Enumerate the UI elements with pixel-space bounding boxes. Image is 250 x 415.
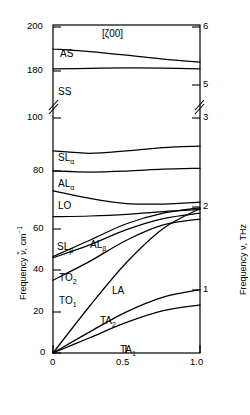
- y-axis-right-label: Frequency ν, THz: [238, 224, 248, 295]
- branch-label-text: TO: [59, 272, 73, 283]
- branch-label-text: TA: [100, 315, 112, 326]
- branch-label-text: TA: [120, 344, 132, 355]
- branch-label-subscript: 2: [73, 278, 77, 285]
- nu-tilde-symbol: ν̃: [18, 250, 28, 255]
- phonon-dispersion-figure: 200 180 100 80 60 40 20 0 6 5 3 2 1 0 0.…: [0, 0, 250, 415]
- branch-curve-ALa: [53, 168, 200, 172]
- branch-label-TA1: TA1: [120, 344, 136, 357]
- y-left-tick-60: 60: [33, 222, 44, 233]
- y-right-tick-2: 2: [203, 200, 208, 211]
- y-right-tick-1: 1: [203, 283, 208, 294]
- branch-label-AS: AS: [60, 48, 73, 59]
- branch-label-subscript: β: [102, 245, 106, 252]
- branch-label-LA: LA: [112, 285, 124, 296]
- y-right-tick-6: 6: [203, 20, 208, 31]
- y-left-tick-200: 200: [27, 20, 43, 31]
- branch-label-text: SL: [57, 241, 69, 252]
- y-left-label-text: Frequency: [18, 255, 28, 300]
- branch-label-text: AS: [60, 48, 73, 59]
- y-left-tick-40: 40: [33, 263, 44, 274]
- branch-label-ALb: ALβ: [90, 239, 106, 252]
- y-axis-left-label: Frequency ν̃, cm−1: [16, 226, 28, 300]
- y-right-tick-5: 5: [203, 78, 208, 89]
- branch-label-text: AL: [90, 239, 102, 250]
- branch-label-text: TO: [59, 295, 73, 306]
- branch-label-TO2: TO2: [59, 272, 77, 285]
- branch-label-LO: LO: [58, 200, 71, 211]
- y-left-tick-100: 100: [27, 111, 43, 122]
- branch-label-SS: SS: [58, 86, 71, 97]
- axis-break-marks: [49, 100, 204, 114]
- branch-label-SLa: SLα: [58, 152, 74, 165]
- branch-label-text: AL: [58, 178, 70, 189]
- x-tick-0: 0: [50, 356, 55, 367]
- y-left-tick-80: 80: [33, 164, 44, 175]
- branch-curve-AS: [53, 49, 200, 62]
- branch-label-subscript: 1: [73, 301, 77, 308]
- branch-curve-LO: [53, 191, 200, 204]
- branch-curve-SLa: [53, 146, 200, 153]
- direction-annotation: [ζ00]: [102, 28, 123, 39]
- branch-label-text: SS: [58, 86, 71, 97]
- y-left-label-exponent: −1: [16, 226, 23, 233]
- branch-label-subscript: 1: [132, 350, 136, 357]
- branch-label-subscript: β: [69, 247, 73, 254]
- branch-curve-SS: [53, 68, 200, 69]
- branch-label-text: LO: [58, 200, 71, 211]
- x-axis-caption: (Γ) (Y) ζ = k (2π/a₀) = a₀ λ: [0, 372, 250, 404]
- branch-label-TA2: TA2: [100, 315, 116, 328]
- branch-label-subscript: 2: [112, 321, 116, 328]
- branch-label-text: SL: [58, 152, 70, 163]
- y-left-tick-20: 20: [33, 305, 44, 316]
- y-left-tick-180: 180: [27, 64, 43, 75]
- branch-label-subscript: α: [70, 158, 74, 165]
- branch-label-ALa: ALα: [58, 178, 74, 191]
- x-tick-0.5: 0.5: [116, 356, 129, 367]
- branch-label-TO1: TO1: [59, 295, 77, 308]
- branch-label-subscript: α: [70, 184, 74, 191]
- y-left-label-unit: , cm: [18, 233, 28, 250]
- y-axis-right-ticks: [192, 27, 200, 290]
- y-left-tick-0: 0: [40, 346, 45, 357]
- branch-label-text: LA: [112, 285, 124, 296]
- branch-curve-ALb: [53, 208, 200, 257]
- y-right-tick-3: 3: [203, 111, 208, 122]
- x-tick-1.0: 1.0: [190, 356, 203, 367]
- branch-label-SLb: SLβ: [57, 241, 73, 254]
